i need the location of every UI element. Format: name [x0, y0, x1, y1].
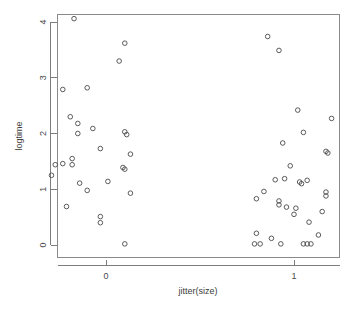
data-point	[329, 116, 334, 121]
data-point	[72, 16, 77, 21]
data-point	[320, 209, 325, 214]
data-point	[284, 205, 289, 210]
data-point	[123, 242, 128, 247]
data-point	[316, 233, 321, 238]
data-point	[288, 164, 293, 169]
data-point	[254, 231, 259, 236]
data-point	[49, 173, 54, 178]
data-point	[60, 87, 65, 92]
data-point	[280, 141, 285, 146]
data-point	[98, 220, 103, 225]
y-tick-label: 2	[38, 131, 48, 136]
data-point	[85, 85, 90, 90]
data-point	[98, 146, 103, 151]
y-axis-title: logtime	[14, 121, 24, 150]
data-point	[292, 212, 297, 217]
data-point	[282, 176, 287, 181]
data-point	[77, 181, 82, 186]
data-point	[70, 162, 75, 167]
data-point	[295, 108, 300, 113]
x-tick-label: 1	[291, 271, 296, 281]
data-point	[98, 214, 103, 219]
plot-panel-border	[58, 15, 340, 258]
data-point	[305, 178, 310, 183]
y-tick-label: 1	[38, 187, 48, 192]
data-point	[301, 130, 306, 135]
data-point	[70, 156, 75, 161]
x-tick-label: 0	[103, 271, 108, 281]
scatter-plot-figure: 01234 01 jitter(size) logtime	[0, 0, 357, 311]
data-points-layer	[49, 16, 334, 246]
data-point	[117, 59, 122, 64]
data-point	[85, 188, 90, 193]
data-point	[91, 126, 96, 131]
plot-canvas: 01234 01 jitter(size) logtime	[0, 0, 357, 311]
data-point	[273, 177, 278, 182]
data-point	[269, 236, 274, 241]
data-point	[258, 242, 263, 247]
data-point	[106, 179, 111, 184]
data-point	[128, 191, 133, 196]
data-point	[123, 41, 128, 46]
x-axis: 01	[58, 260, 340, 281]
y-tick-label: 3	[38, 75, 48, 80]
y-axis: 01234	[38, 19, 57, 247]
x-axis-title: jitter(size)	[177, 286, 217, 296]
data-point	[262, 189, 267, 194]
data-point	[254, 196, 259, 201]
data-point	[279, 242, 284, 247]
data-point	[128, 152, 133, 157]
plot-panel	[58, 15, 340, 258]
data-point	[277, 48, 282, 53]
y-tick-label: 4	[38, 19, 48, 24]
data-point	[307, 220, 312, 225]
data-point	[64, 204, 69, 209]
y-tick-label: 0	[38, 242, 48, 247]
data-point	[68, 114, 73, 119]
data-point	[53, 162, 58, 167]
data-point	[76, 121, 81, 126]
data-point	[60, 161, 65, 166]
data-point	[265, 34, 270, 39]
data-point	[252, 242, 257, 247]
data-point	[294, 206, 299, 211]
data-point	[76, 131, 81, 136]
